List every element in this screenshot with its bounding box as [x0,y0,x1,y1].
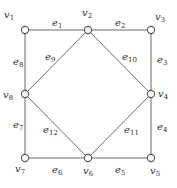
edge-label-e8: e8 [13,56,23,69]
vertex-v2 [84,26,91,33]
edge-label-e4: e4 [157,121,168,134]
vertex-v3 [147,26,154,33]
edge-label-e3: e3 [157,54,167,67]
edge-label-e7: e7 [13,119,23,132]
vertex-label-v5: v5 [150,165,160,178]
vertex-label-v1: v1 [4,9,14,22]
vertex-label-v6: v6 [83,165,94,178]
vertex-v6 [84,154,91,161]
vertex-v7 [21,154,28,161]
vertex-v4 [147,90,154,97]
vertex-label-v4: v4 [158,88,169,101]
vertex-label-v3: v3 [155,11,165,24]
edge-label-e6: e6 [52,164,63,177]
edge-label-e10: e10 [122,51,137,64]
edge-label-e12: e12 [43,124,58,137]
edge-e10 [88,30,151,94]
vertex-v5 [147,154,154,161]
vertex-label-v7: v7 [15,163,25,176]
vertex-v8 [21,90,28,97]
vertex-label-v2: v2 [82,7,92,20]
graph-diagram: e1e2e3e4e5e6e7e8e9e10e11e12v1v2v3v4v5v6v… [0,0,177,188]
edge-label-e2: e2 [115,17,125,30]
vertices-group [21,26,154,161]
edge-label-e11: e11 [124,124,139,137]
edge-e9 [25,30,88,94]
vertex-v1 [21,26,28,33]
vertex-label-v8: v8 [3,89,13,102]
edges-group [25,30,151,158]
edge-e11 [88,94,151,158]
edge-label-e5: e5 [115,164,125,177]
edge-label-e1: e1 [52,17,62,30]
edge-label-e9: e9 [45,51,55,64]
edge-e12 [25,94,88,158]
